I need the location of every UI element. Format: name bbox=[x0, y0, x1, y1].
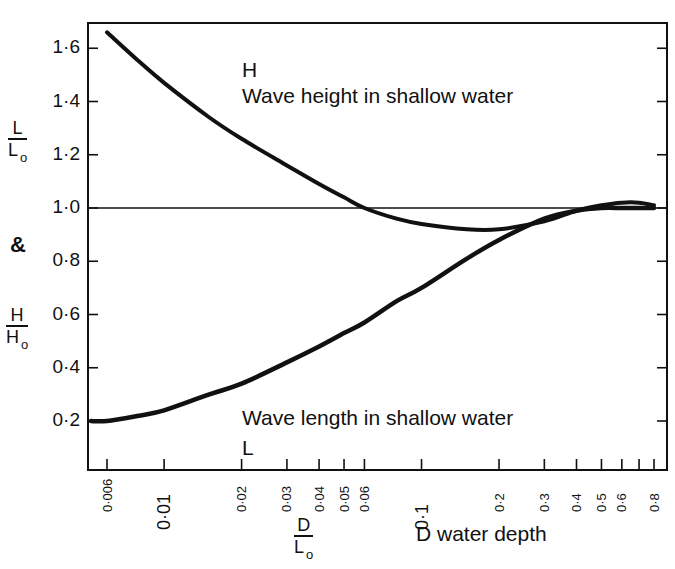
x-axis-ticks bbox=[107, 459, 654, 470]
x-tick-label: 0·05 bbox=[337, 486, 352, 512]
x-label-denominator: Lo bbox=[294, 537, 313, 565]
y-tick-label: 0·2 bbox=[30, 409, 80, 431]
y-label-top-denominator: Lo bbox=[8, 140, 27, 168]
wave-length-curve bbox=[91, 208, 654, 422]
y-axis-label-h-over-ho: H Ho bbox=[6, 305, 28, 355]
x-tick-label: 0·06 bbox=[357, 486, 372, 512]
y-tick-label: 1·0 bbox=[30, 196, 80, 218]
y-label-bottom-numerator: H bbox=[6, 305, 28, 327]
x-tick-label: 0·03 bbox=[279, 486, 294, 512]
height-series-caption: Wave height in shallow water bbox=[242, 84, 513, 108]
y-label-top-numerator: L bbox=[8, 118, 27, 140]
x-tick-label: 0·006 bbox=[100, 479, 115, 512]
x-tick-label: 0·02 bbox=[234, 486, 249, 512]
x-tick-label: 0·3 bbox=[537, 493, 552, 512]
x-label-numerator: D bbox=[294, 515, 313, 537]
y-axis-label-l-over-lo: L Lo bbox=[8, 118, 27, 168]
y-tick-label: 1·6 bbox=[30, 36, 80, 58]
wave-height-curve bbox=[107, 32, 654, 230]
x-axis-label-d-over-lo: D Lo bbox=[294, 515, 313, 565]
x-axis-note: D water depth bbox=[416, 522, 547, 546]
y-axis-label-joiner: & bbox=[10, 232, 26, 258]
x-tick-label: 0·2 bbox=[492, 493, 507, 512]
x-tick-label: 0·01 bbox=[154, 494, 175, 530]
length-series-letter: L bbox=[242, 436, 254, 460]
height-series-letter: H bbox=[242, 58, 257, 82]
y-tick-label: 1·4 bbox=[30, 90, 80, 112]
x-tick-label: 0·5 bbox=[594, 493, 609, 512]
length-series-caption: Wave length in shallow water bbox=[242, 406, 513, 430]
y-tick-label: 0·6 bbox=[30, 303, 80, 325]
y-label-bottom-denominator: Ho bbox=[6, 327, 28, 355]
x-tick-label: 0·4 bbox=[569, 493, 584, 512]
x-tick-label: 0·8 bbox=[647, 493, 662, 512]
x-tick-label: 0·6 bbox=[614, 493, 629, 512]
y-tick-label: 0·4 bbox=[30, 356, 80, 378]
y-tick-label: 0·8 bbox=[30, 249, 80, 271]
y-tick-label: 1·2 bbox=[30, 143, 80, 165]
x-tick-label: 0·04 bbox=[312, 486, 327, 512]
